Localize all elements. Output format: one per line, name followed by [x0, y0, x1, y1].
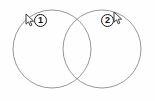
annotated-venn-diagram: 1 2 [0, 0, 155, 101]
step-badge-1[interactable]: 1 [34, 14, 47, 27]
mouse-cursor-icon [113, 11, 124, 26]
venn-diagram-graphic [0, 0, 155, 101]
